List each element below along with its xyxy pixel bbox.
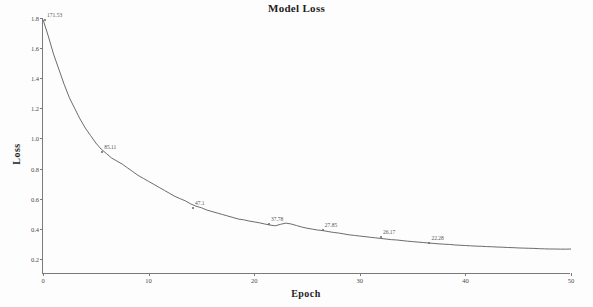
x-axis-tick-label: 10 xyxy=(145,277,152,284)
data-point-label: 47.1 xyxy=(195,200,205,206)
loss-curve xyxy=(43,18,571,274)
y-axis-tick-label: 1.0 xyxy=(31,135,39,142)
data-point-marker xyxy=(268,223,270,225)
x-axis-tick-label: 30 xyxy=(357,277,364,284)
y-axis-tick-mark xyxy=(40,138,43,139)
y-axis-tick-mark xyxy=(40,18,43,19)
model-loss-chart: Model Loss Loss Epoch 1.81.61.41.21.00.8… xyxy=(0,0,593,307)
x-axis-tick-mark xyxy=(254,273,255,276)
y-axis-tick-label: 0.6 xyxy=(31,195,39,202)
data-point-label: 27.85 xyxy=(325,222,337,228)
y-axis-tick-mark xyxy=(40,169,43,170)
data-point-marker xyxy=(428,242,430,244)
y-axis-tick-label: 1.6 xyxy=(31,45,39,52)
y-axis-tick-mark xyxy=(40,229,43,230)
y-axis-label: Loss xyxy=(11,143,22,164)
y-axis-tick-mark xyxy=(40,199,43,200)
y-axis-tick-mark xyxy=(40,48,43,49)
data-point-label: 171.53 xyxy=(47,12,62,18)
x-axis-tick-mark xyxy=(465,273,466,276)
data-point-marker xyxy=(322,229,324,231)
data-point-marker xyxy=(192,207,194,209)
x-axis-tick-label: 40 xyxy=(462,277,469,284)
data-point-label: 85.11 xyxy=(104,144,116,150)
x-axis-tick-mark xyxy=(43,273,44,276)
chart-title: Model Loss xyxy=(0,2,593,14)
x-axis-label: Epoch xyxy=(42,288,570,299)
y-axis-tick-label: 0.4 xyxy=(31,225,39,232)
data-point-label: 37.78 xyxy=(271,216,283,222)
y-axis-tick-label: 1.4 xyxy=(31,75,39,82)
y-axis-tick-label: 1.2 xyxy=(31,105,39,112)
y-axis-tick-mark xyxy=(40,78,43,79)
plot-area: 1.81.61.41.21.00.80.60.40.20102030405017… xyxy=(42,18,570,274)
y-axis-tick-label: 1.8 xyxy=(31,15,39,22)
data-point-label: 22.28 xyxy=(431,235,443,241)
y-axis-tick-label: 0.8 xyxy=(31,165,39,172)
data-point-marker xyxy=(101,151,103,153)
x-axis-tick-label: 50 xyxy=(568,277,575,284)
y-axis-tick-mark xyxy=(40,108,43,109)
x-axis-tick-mark xyxy=(149,273,150,276)
x-axis-tick-label: 20 xyxy=(251,277,258,284)
x-axis-tick-mark xyxy=(360,273,361,276)
x-axis-tick-label: 0 xyxy=(41,277,44,284)
data-point-label: 26.17 xyxy=(383,229,395,235)
data-point-marker xyxy=(380,236,382,238)
y-axis-tick-label: 0.2 xyxy=(31,255,39,262)
data-point-marker xyxy=(44,19,46,21)
y-axis-tick-mark xyxy=(40,259,43,260)
x-axis-tick-mark xyxy=(571,273,572,276)
